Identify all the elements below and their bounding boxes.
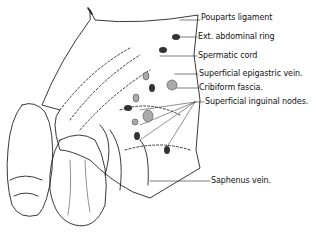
- label-ext-abdominal-ring: Ext. abdominal ring: [198, 32, 274, 41]
- label-superficial-epigastric-vein: Superficial epigastric vein.: [199, 69, 302, 78]
- lymph-nodes: [124, 34, 180, 154]
- label-saphenus-vein: Saphenus vein.: [211, 176, 271, 185]
- label-spermatic-cord: Spermatic cord: [198, 51, 257, 60]
- penis-outline: [7, 104, 53, 217]
- label-pouparts-ligament: Pouparts ligament: [201, 13, 272, 22]
- label-cribriform-fascia: Cribiform fascia.: [199, 83, 263, 92]
- scrotum-outline: [50, 135, 107, 226]
- label-superficial-inguinal-nodes: Superficial inguinal nodes.: [205, 97, 308, 106]
